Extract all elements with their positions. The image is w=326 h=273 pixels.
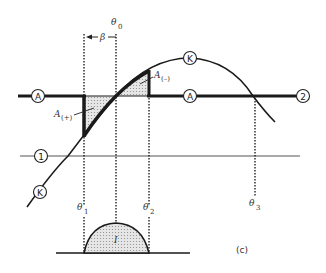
marker-k-top: K xyxy=(184,52,197,65)
marker-a-right: A xyxy=(184,90,197,103)
svg-text:(+): (+) xyxy=(61,114,73,122)
beta-label: β xyxy=(99,32,105,42)
marker-a-left: A xyxy=(32,90,45,103)
svg-text:2: 2 xyxy=(300,92,306,102)
svg-text:A: A xyxy=(187,92,194,102)
svg-text:θ: θ xyxy=(111,17,117,27)
svg-text:(–): (–) xyxy=(161,75,170,83)
beta-arrow: β xyxy=(86,32,116,42)
svg-text:θ: θ xyxy=(249,198,255,208)
marker-1: 1 xyxy=(35,150,48,163)
panel-label: (c) xyxy=(236,245,248,255)
svg-text:1: 1 xyxy=(84,208,88,216)
svg-text:A: A xyxy=(53,109,61,119)
svg-text:3: 3 xyxy=(256,204,260,212)
marker-k-bottom: K xyxy=(34,186,47,199)
svg-text:1: 1 xyxy=(38,152,44,162)
curve-k xyxy=(27,58,275,207)
theta0-label: θ 0 xyxy=(111,17,122,31)
svg-text:θ: θ xyxy=(143,202,149,212)
svg-text:A: A xyxy=(35,92,42,102)
svg-text:0: 0 xyxy=(118,23,122,31)
svg-text:A: A xyxy=(153,70,161,80)
equal-area-diagram: β θ 0 θ 1 θ 2 θ 3 A (+) A (–) A A 2 xyxy=(0,0,326,273)
svg-text:2: 2 xyxy=(150,208,154,216)
theta1-label: θ 1 xyxy=(77,202,88,216)
theta3-label: θ 3 xyxy=(249,198,260,212)
svg-text:θ: θ xyxy=(77,202,83,212)
marker-2: 2 xyxy=(297,90,310,103)
current-pulse-label: I xyxy=(113,235,118,245)
